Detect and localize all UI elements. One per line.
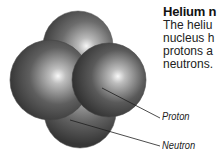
diagram-description: The heliu nucleus h protons a neutrons.: [163, 19, 224, 71]
description-line: neutrons.: [163, 58, 224, 71]
proton-label: Proton: [162, 110, 190, 122]
diagram-title: Helium n: [163, 4, 216, 19]
neutron-label: Neutron: [162, 139, 195, 151]
proton-sphere-right: [72, 43, 146, 117]
